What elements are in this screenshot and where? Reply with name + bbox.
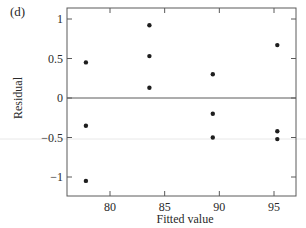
data-point — [147, 54, 151, 58]
data-point — [84, 124, 88, 128]
y-tick-label: 1 — [23, 12, 63, 27]
scatter-plot — [0, 0, 306, 228]
plot-frame — [67, 8, 296, 196]
y-tick-label: 0 — [23, 91, 63, 106]
data-point — [211, 112, 215, 116]
y-tick-label: −1 — [23, 170, 63, 185]
data-points — [84, 23, 280, 183]
y-tick-label: 0.5 — [23, 51, 63, 66]
data-point — [211, 72, 215, 76]
data-point — [84, 179, 88, 183]
x-tick-label: 95 — [268, 200, 280, 215]
x-tick-label: 85 — [159, 200, 171, 215]
data-point — [275, 137, 279, 141]
data-point — [211, 135, 215, 139]
data-point — [147, 86, 151, 90]
data-point — [84, 60, 88, 64]
x-tick-label: 80 — [104, 200, 116, 215]
data-point — [275, 43, 279, 47]
data-point — [147, 23, 151, 27]
y-tick-label: −0.5 — [23, 130, 63, 145]
axis-ticks — [67, 8, 296, 196]
x-tick-label: 90 — [213, 200, 225, 215]
data-point — [275, 129, 279, 133]
